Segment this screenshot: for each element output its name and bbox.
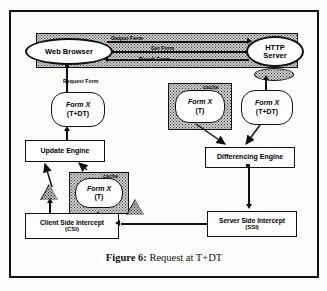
node-form-x-csi-line2: (T)	[95, 193, 104, 201]
edge-label-get-form: Get Form	[151, 45, 174, 51]
edge-update-engine-to-form-arrowhead	[64, 126, 70, 131]
node-client-side-intercept[interactable]: Client Side Intercept (CSI)	[25, 213, 119, 239]
edge-get-form-line	[107, 51, 249, 53]
node-update-engine-label: Update Engine	[40, 147, 89, 155]
edge-label-output-form: Output Form	[111, 35, 143, 41]
figure-frame: Output Form Get Form Result Form Web Bro…	[9, 10, 319, 278]
edge-csi-cache-to-update-engine	[79, 163, 87, 170]
edge-csi-to-marker-arrowhead	[47, 198, 53, 203]
node-server-side-intercept-label: Server Side Intercept	[219, 217, 285, 225]
node-server-side-intercept[interactable]: Server Side Intercept (SSI)	[207, 211, 297, 237]
edge-ssi-to-csi-arrowhead	[115, 220, 120, 226]
edge-output-form-line	[107, 41, 249, 43]
figure-caption: Figure 6: Request at T+DT	[11, 252, 317, 263]
node-form-x-t-plus-dt-right[interactable]: Form X (T+DT)	[241, 90, 293, 125]
edge-form-right-to-cache-line	[265, 80, 267, 90]
node-http-server-label-line2: Server	[263, 52, 286, 60]
edge-form-right-to-cache-arrowhead	[263, 75, 269, 80]
edge-ssi-to-csi-line	[121, 223, 207, 225]
edge-update-engine-to-form-line	[66, 131, 68, 140]
node-update-engine[interactable]: Update Engine	[25, 140, 105, 162]
figure-page: Output Form Get Form Result Form Web Bro…	[0, 0, 327, 291]
node-form-x-csi-line1: Form X	[87, 185, 111, 193]
edge-form-right-to-diff-engine	[246, 125, 260, 144]
cache-label-differencing: cache	[203, 84, 219, 90]
edge-diff-engine-to-ssi-arrowhead	[246, 204, 252, 209]
node-client-side-intercept-label: Client Side Intercept	[40, 219, 104, 227]
edge-diff-engine-to-ssi-line	[248, 166, 250, 205]
edge-result-form-line	[107, 59, 249, 61]
node-http-server[interactable]: HTTP Server	[246, 36, 304, 67]
node-form-x-cache-line2: (T)	[196, 107, 205, 115]
node-differencing-engine-label: Differencing Engine	[217, 153, 283, 161]
node-form-x-left-line1: Form X	[66, 101, 90, 109]
node-form-x-left-line2: (T+DT)	[67, 110, 89, 118]
server-cache-store	[254, 68, 294, 81]
edge-label-result-form: Result Form	[139, 56, 170, 62]
node-server-side-intercept-abbr: (SSI)	[245, 224, 259, 231]
node-form-x-t-csi[interactable]: Form X (T)	[75, 178, 123, 208]
node-form-x-cache-line1: Form X	[188, 98, 212, 106]
edge-label-request-form: Request Form	[63, 78, 98, 84]
node-form-x-t-cache[interactable]: Form X (T)	[175, 90, 225, 123]
node-web-browser[interactable]: Web Browser	[25, 38, 113, 65]
node-form-x-right-line1: Form X	[255, 99, 279, 107]
figure-caption-text: Request at T+DT	[149, 252, 222, 263]
edge-diff-engine-terminator	[246, 164, 250, 168]
node-form-x-t-plus-dt-left[interactable]: Form X (T+DT)	[51, 92, 105, 127]
figure-caption-number: Figure 6:	[106, 252, 147, 263]
node-web-browser-label: Web Browser	[45, 48, 93, 56]
node-form-x-right-line2: (T+DT)	[256, 108, 278, 116]
node-client-side-intercept-abbr: (CSI)	[65, 226, 79, 233]
